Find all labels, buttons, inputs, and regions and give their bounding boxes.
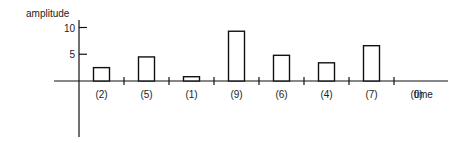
bars [94,31,380,81]
category-label: (2) [95,89,107,100]
y-ticks: 510 [64,23,87,61]
amplitude-time-chart: amplitude time 510 (2)(5)(1)(9)(6)(4)(7)… [0,0,472,143]
category-label: (6) [275,89,287,100]
category-labels: (2)(5)(1)(9)(6)(4)(7)(0) [95,89,422,100]
bar [319,63,335,81]
category-label: (9) [230,89,242,100]
category-label: (7) [365,89,377,100]
bar [139,57,155,81]
bar [94,68,110,81]
bar [364,46,380,81]
bar [229,31,245,81]
y-axis-label: amplitude [26,8,70,19]
bar [184,77,200,81]
category-label: (0) [410,89,422,100]
y-tick-label: 10 [64,23,76,34]
category-label: (4) [320,89,332,100]
category-label: (5) [140,89,152,100]
bar [274,55,290,81]
y-tick-label: 5 [69,49,75,60]
category-label: (1) [185,89,197,100]
